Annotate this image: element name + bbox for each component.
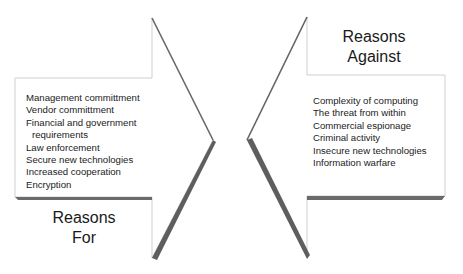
title-line: For — [44, 228, 124, 248]
list-item: Law enforcement — [26, 142, 140, 154]
title-line: Against — [334, 47, 414, 67]
list-item: Management committment — [26, 92, 140, 104]
reasons-for-list: Management committment Vendor committmen… — [26, 92, 140, 191]
list-item: Information warfare — [313, 157, 427, 169]
title-line: Reasons — [44, 208, 124, 228]
list-item: requirements — [26, 129, 140, 141]
reasons-for-title: Reasons For — [44, 208, 124, 248]
list-item: The threat from within — [313, 107, 427, 119]
list-item: Increased cooperation — [26, 166, 140, 178]
list-item: Secure new technologies — [26, 154, 140, 166]
list-item: Encryption — [26, 179, 140, 191]
list-item: Commercial espionage — [313, 120, 427, 132]
list-item: Criminal activity — [313, 132, 427, 144]
list-item: Financial and government — [26, 117, 140, 129]
reasons-against-list: Complexity of computing The threat from … — [313, 95, 427, 169]
title-line: Reasons — [334, 27, 414, 47]
reasons-against-title: Reasons Against — [334, 27, 414, 67]
list-item: Vendor committment — [26, 104, 140, 116]
list-item: Complexity of computing — [313, 95, 427, 107]
list-item: Insecure new technologies — [313, 145, 427, 157]
